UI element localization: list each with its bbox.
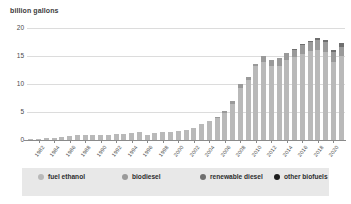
bar-segment-fuel-ethanol (191, 128, 196, 140)
bar-segment-fuel-ethanol (207, 121, 212, 140)
bar-2013 (277, 58, 282, 140)
legend-label: fuel ethanol (48, 173, 85, 181)
x-axis-tick-label: 2008 (235, 144, 247, 157)
legend-item-fuel-ethanol[interactable]: fuel ethanol (38, 168, 122, 181)
x-axis-tick-label: 1982 (33, 144, 45, 157)
x-axis-tick-label: 2010 (250, 144, 262, 157)
bar-segment-fuel-ethanol (277, 66, 282, 140)
x-axis-tick-label: 1988 (80, 144, 92, 157)
bar-segment-biodiesel (284, 53, 289, 60)
legend-swatch-icon (274, 174, 280, 180)
bar-segment-fuel-ethanol (284, 60, 289, 140)
bar-segment-biodiesel (308, 42, 313, 51)
bar-segment-fuel-ethanol (315, 50, 320, 140)
bar-segment-fuel-ethanol (230, 104, 235, 141)
x-axis-tick-label: 2012 (266, 144, 278, 157)
bar-segment-fuel-ethanol (246, 80, 251, 140)
bar-segment-fuel-ethanol (300, 54, 305, 140)
bar-segment-fuel-ethanol (331, 62, 336, 140)
legend-item-biodiesel[interactable]: biodiesel (122, 168, 200, 181)
bar-segment-biodiesel (315, 40, 320, 50)
biofuel-production-chart: billion gallons 05101520 198219841986198… (0, 0, 351, 204)
bar-segment-biodiesel (277, 58, 282, 66)
bar-2003 (199, 124, 204, 140)
legend-item-renewable-diesel[interactable]: renewable diesel (200, 168, 274, 181)
bar-segment-fuel-ethanol (238, 88, 243, 140)
legend-label: other biofuels (284, 173, 328, 181)
chart-legend: fuel ethanol biodiesel renewable diesel … (22, 168, 329, 196)
bar-2009 (246, 77, 251, 140)
legend-swatch-icon (122, 174, 128, 180)
bar-2019 (323, 40, 328, 140)
bar-2005 (215, 117, 220, 140)
y-axis: 05101520 (4, 0, 24, 204)
bar-segment-fuel-ethanol (199, 124, 204, 140)
bar-segment-fuel-ethanol (323, 52, 328, 140)
bar-segment-fuel-ethanol (184, 130, 189, 140)
bar-2021 (339, 43, 344, 140)
bar-2016 (300, 44, 305, 140)
x-axis-tick-label: 2020 (328, 144, 340, 157)
bar-2002 (191, 128, 196, 140)
bar-2001 (184, 130, 189, 140)
bar-1997 (152, 133, 157, 140)
bar-segment-fuel-ethanol (152, 133, 157, 140)
x-axis-tick-label: 2004 (204, 144, 216, 157)
bar-1999 (168, 132, 173, 140)
bar-2004 (207, 121, 212, 140)
bar-segment-fuel-ethanol (292, 57, 297, 140)
bar-segment-biodiesel (300, 45, 305, 54)
bar-2006 (222, 111, 227, 140)
bar-2015 (292, 49, 297, 140)
bar-2020 (331, 50, 336, 140)
bar-1995 (137, 132, 142, 140)
bar-2008 (238, 84, 243, 140)
legend-label: biodiesel (132, 173, 161, 181)
x-axis-tick-label: 2000 (173, 144, 185, 157)
x-axis-tick-label: 1990 (95, 144, 107, 157)
x-axis-tick-label: 1998 (157, 144, 169, 157)
bar-segment-fuel-ethanol (222, 113, 227, 140)
bar-segment-fuel-ethanol (269, 66, 274, 140)
bar-2018 (315, 38, 320, 140)
bar-segment-fuel-ethanol (215, 118, 220, 140)
y-axis-tick-label: 20 (6, 25, 24, 32)
plot-area (27, 28, 345, 140)
bar-segment-fuel-ethanol (137, 132, 142, 140)
legend-label: renewable diesel (210, 173, 263, 181)
bar-2010 (253, 64, 258, 140)
bar-2012 (269, 60, 274, 140)
legend-item-other-biofuels[interactable]: other biofuels (274, 168, 328, 181)
x-axis-tick-label: 1994 (126, 144, 138, 157)
bar-segment-fuel-ethanol (339, 56, 344, 140)
x-axis-tick-label: 1992 (111, 144, 123, 157)
bar-1994 (129, 133, 134, 140)
y-axis-tick-label: 15 (6, 53, 24, 60)
bar-2017 (308, 41, 313, 140)
x-axis-tick-label: 1984 (49, 144, 61, 157)
bar-2007 (230, 101, 235, 140)
gridline (27, 28, 345, 29)
y-axis-tick-label: 5 (6, 109, 24, 116)
bar-segment-fuel-ethanol (160, 132, 165, 140)
bar-segment-biodiesel (339, 47, 344, 56)
x-axis-tick-label: 2002 (188, 144, 200, 157)
bar-2011 (261, 56, 266, 140)
bar-segment-fuel-ethanol (261, 62, 266, 140)
bar-segment-biodiesel (323, 42, 328, 52)
x-axis-tick-label: 1986 (64, 144, 76, 157)
gridline (27, 84, 345, 85)
x-axis-tick-label: 2014 (281, 144, 293, 157)
x-axis-tick-label: 2018 (312, 144, 324, 157)
bar-segment-fuel-ethanol (176, 131, 181, 140)
legend-swatch-icon (200, 174, 206, 180)
bar-segment-fuel-ethanol (308, 51, 313, 140)
legend-swatch-icon (38, 174, 44, 180)
x-axis-tick-label: 1996 (142, 144, 154, 157)
bar-1998 (160, 132, 165, 140)
bar-segment-fuel-ethanol (168, 132, 173, 140)
x-axis-tick-label: 2006 (219, 144, 231, 157)
bar-2014 (284, 53, 289, 140)
gridline (27, 112, 345, 113)
bar-2000 (176, 131, 181, 140)
